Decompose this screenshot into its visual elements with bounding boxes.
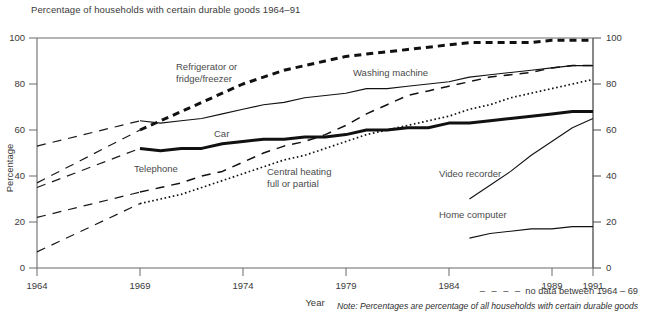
y-tick-label-100: 100	[9, 32, 25, 43]
series-gap-segment	[37, 204, 140, 252]
series-gap-segment	[37, 121, 140, 146]
y-tick-label-0: 0	[20, 262, 25, 273]
series-label-car: Car	[214, 128, 229, 139]
series-line-video-recorder	[469, 119, 593, 200]
x-axis-title: Year	[305, 297, 324, 308]
dashed-line-symbol: – – – –	[480, 286, 522, 296]
y-axis-ticks-right: 0 20 40 60 80 100	[593, 32, 622, 273]
series-label-refrigerator: Refrigerator or	[176, 61, 237, 72]
x-tick-label-1974: 1974	[232, 280, 253, 291]
series-gap-segment	[37, 192, 140, 217]
legend-note-text: no data between 1964 – 69	[525, 286, 638, 296]
y-tick-label-40: 40	[14, 170, 25, 181]
x-tick-label-1979: 1979	[335, 280, 356, 291]
data-series-layer	[37, 40, 593, 252]
chart-page: Percentage of households with certain du…	[0, 0, 646, 318]
y-tick-right-label-40: 40	[606, 170, 617, 181]
series-label-central-heating: Central heating	[267, 166, 331, 177]
series-line-home-computer	[469, 227, 593, 239]
series-label-video-recorder: Video recorder	[439, 168, 501, 179]
y-tick-right-label-0: 0	[606, 262, 611, 273]
x-tick-label-1964: 1964	[26, 280, 47, 291]
y-tick-label-20: 20	[14, 216, 25, 227]
y-tick-label-80: 80	[14, 78, 25, 89]
y-tick-right-label-100: 100	[606, 32, 622, 43]
y-axis-title: Percentage	[4, 144, 15, 193]
series-label-central-heating-line2: full or partial	[267, 178, 319, 189]
x-tick-label-1984: 1984	[438, 280, 459, 291]
series-gap-segment	[37, 148, 140, 187]
x-tick-label-1969: 1969	[129, 280, 150, 291]
series-label-refrigerator-line2: fridge/freezer	[176, 73, 232, 84]
y-tick-right-label-20: 20	[606, 216, 617, 227]
chart-footnote: Note: Percentages are percentage of all …	[337, 301, 638, 311]
series-label-layer: Refrigerator or fridge/freezer Washing m…	[134, 61, 507, 220]
series-gap-segment	[37, 130, 140, 183]
series-label-telephone: Telephone	[134, 163, 178, 174]
series-label-home-computer: Home computer	[439, 209, 507, 220]
chart-canvas: 0 20 40 60 80 100 0 20 40 60 80 100	[0, 0, 646, 318]
y-tick-right-label-60: 60	[606, 124, 617, 135]
legend-no-data-note: – – – –no data between 1964 – 69	[480, 286, 638, 296]
y-tick-right-label-80: 80	[606, 78, 617, 89]
series-label-washing-machine: Washing machine	[353, 67, 428, 78]
y-tick-label-60: 60	[14, 124, 25, 135]
